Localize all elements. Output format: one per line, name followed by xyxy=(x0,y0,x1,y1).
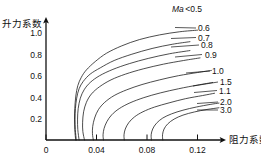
y-axis-title: 升力系数 xyxy=(2,18,42,29)
curve-label-1.0: 1.0 xyxy=(212,66,224,76)
leader-0.7 xyxy=(171,38,196,39)
x-tick-label-0.12: 0.12 xyxy=(189,145,206,155)
leader-1.1 xyxy=(194,91,217,93)
leader-0.9 xyxy=(175,55,202,58)
y-tick-label-0.6: 0.6 xyxy=(30,71,42,81)
leader-1.5 xyxy=(193,82,218,86)
x-tick-label-0.04: 0.04 xyxy=(88,145,105,155)
curve-label-0.6: 0.6 xyxy=(198,23,210,33)
curve-labels: 0.6 0.7 0.8 0.9 1.0 1.5 1.1 2.0 3.0 xyxy=(198,23,232,115)
curve-0.7 xyxy=(75,42,190,140)
mach-annotation: Ma<0.5 xyxy=(172,4,202,14)
curve-1.1 xyxy=(124,93,215,140)
leader-0.6 xyxy=(175,28,196,29)
curve-1.0 xyxy=(92,70,211,140)
y-tick-label-0.4: 0.4 xyxy=(30,93,42,103)
curve-label-0.8: 0.8 xyxy=(201,40,213,50)
leader-0.8 xyxy=(171,45,199,47)
curve-2.0 xyxy=(151,103,219,140)
y-tick-label-1.0: 1.0 xyxy=(30,28,42,38)
curve-3.0 xyxy=(162,108,218,140)
curve-label-0.9: 0.9 xyxy=(205,50,217,60)
chart-figure: 1.0 0.8 0.6 0.4 0.2 0 0.04 0.08 0.12 升力系… xyxy=(0,0,261,166)
x-axis-title: 阻力系数 xyxy=(229,134,261,145)
curve-label-3.0: 3.0 xyxy=(220,105,232,115)
x-tick-label-0: 0 xyxy=(44,145,49,155)
y-tick-labels: 1.0 0.8 0.6 0.4 0.2 xyxy=(30,28,42,124)
mach-annotation-value: <0.5 xyxy=(185,4,202,14)
drag-polar-chart: 1.0 0.8 0.6 0.4 0.2 0 0.04 0.08 0.12 升力系… xyxy=(0,0,261,166)
leader-2.0 xyxy=(197,102,218,104)
curve-0.8 xyxy=(78,51,190,140)
mach-annotation-symbol: Ma xyxy=(172,4,184,14)
x-tick-label-0.08: 0.08 xyxy=(139,145,156,155)
curve-label-1.1: 1.1 xyxy=(219,86,231,96)
curve-0.9 xyxy=(83,58,200,140)
x-tick-labels: 0 0.04 0.08 0.12 xyxy=(44,145,206,155)
y-tick-label-0.8: 0.8 xyxy=(30,50,42,60)
y-tick-label-0.2: 0.2 xyxy=(30,114,42,124)
